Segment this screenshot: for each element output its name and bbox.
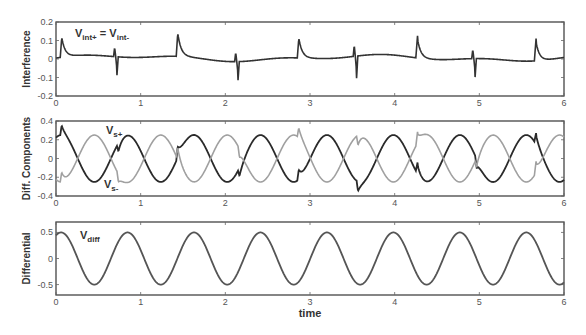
x-tick-label: 0 <box>53 98 58 108</box>
y-tick-label: -0.2 <box>37 91 53 101</box>
y-tick-label: -0.2 <box>37 172 53 182</box>
series-line-vint <box>56 34 564 80</box>
x-tick-label: 2 <box>223 198 228 208</box>
x-tick-label: 5 <box>477 198 482 208</box>
x-tick-label: 2 <box>223 98 228 108</box>
x-axis-label: time <box>299 307 322 319</box>
y-tick-label: -0.4 <box>37 191 53 201</box>
annotation-vs-plus: Vs+ <box>106 124 123 139</box>
x-tick-label: 3 <box>307 98 312 108</box>
y-tick-label: 0.1 <box>40 36 53 46</box>
x-tick-label: 1 <box>138 297 143 307</box>
y-tick-label: 0 <box>48 154 53 164</box>
y-tick-label: 0.2 <box>40 17 53 27</box>
x-tick-label: 6 <box>561 198 566 208</box>
annotation-vs-minus: Vs- <box>104 178 119 193</box>
x-tick-label: 5 <box>477 297 482 307</box>
series-line-vdiff <box>56 232 564 284</box>
x-tick-label: 1 <box>138 98 143 108</box>
y-tick-label: -0.5 <box>37 280 53 290</box>
x-tick-label: 0 <box>53 198 58 208</box>
y-tick-label: -0.1 <box>37 73 53 83</box>
x-tick-label: 4 <box>392 98 397 108</box>
x-tick-label: 3 <box>307 198 312 208</box>
x-tick-label: 4 <box>392 198 397 208</box>
y-tick-label: 0 <box>48 54 53 64</box>
y-tick-label: 0.4 <box>40 116 53 126</box>
figure: 0123456-0.2-0.100.10.2InterferenceVint+ … <box>0 0 586 335</box>
x-tick-label: 1 <box>138 198 143 208</box>
panel-2: 0123456-0.4-0.200.20.4Diff. ComponentsVs… <box>21 116 567 208</box>
x-tick-label: 0 <box>53 297 58 307</box>
x-tick-label: 2 <box>223 297 228 307</box>
y-tick-label: 0.5 <box>40 227 53 237</box>
x-tick-label: 6 <box>561 98 566 108</box>
x-tick-label: 6 <box>561 297 566 307</box>
x-tick-label: 5 <box>477 98 482 108</box>
y-axis-label: Differential <box>21 232 32 284</box>
y-tick-label: 0.2 <box>40 135 53 145</box>
y-axis-label: Interference <box>21 30 32 88</box>
annotation-vdiff: Vdiff <box>80 229 100 244</box>
y-axis-label: Diff. Components <box>21 116 32 200</box>
x-tick-label: 3 <box>307 297 312 307</box>
y-tick-label: 0 <box>48 254 53 264</box>
panel-3: 0123456-0.500.5DifferentialtimeVdiff <box>21 222 567 319</box>
x-tick-label: 4 <box>392 297 397 307</box>
annotation-vint: Vint+ = Vint- <box>75 27 129 42</box>
panel-1: 0123456-0.2-0.100.10.2InterferenceVint+ … <box>21 17 567 108</box>
